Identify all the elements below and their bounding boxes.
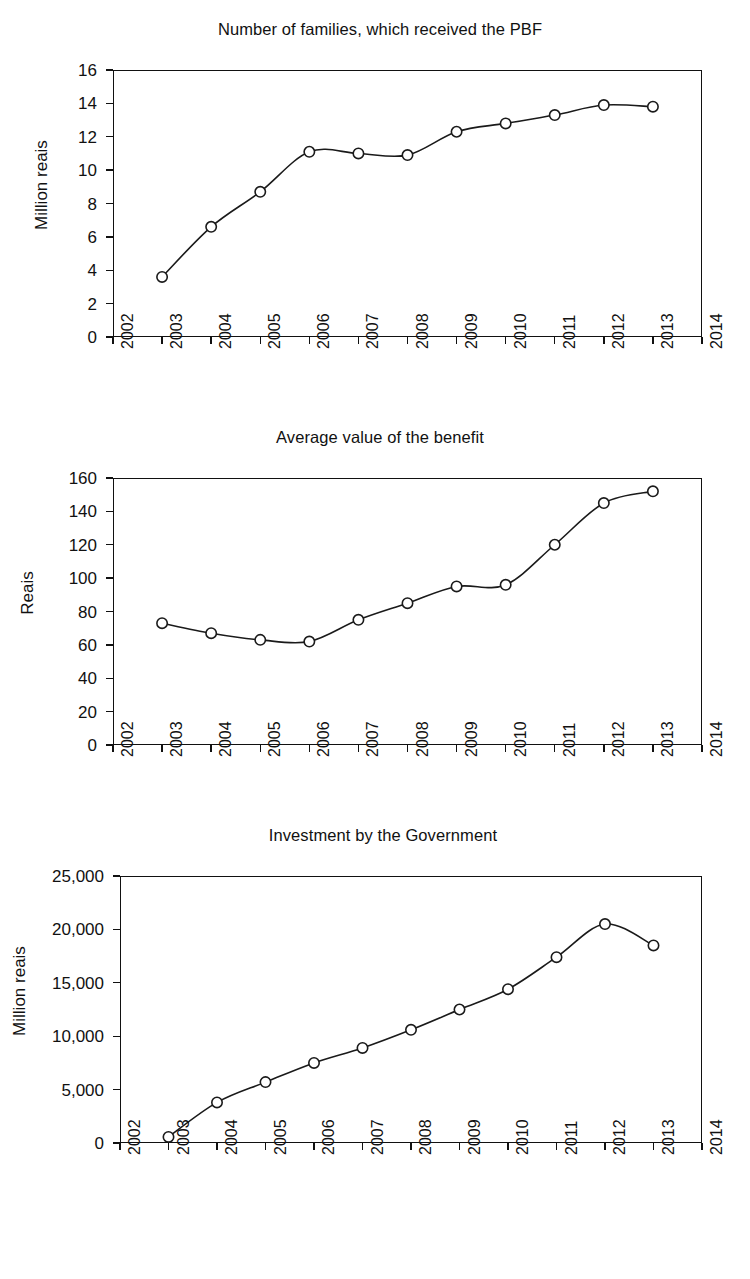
y-tick-mark bbox=[106, 511, 113, 512]
x-tick-mark bbox=[652, 745, 653, 752]
y-tick-mark bbox=[106, 103, 113, 104]
data-point-marker bbox=[550, 540, 560, 550]
caption-sliver bbox=[18, 1262, 348, 1271]
y-tick-mark bbox=[106, 678, 113, 679]
x-tick-mark bbox=[119, 1143, 120, 1150]
x-tick-mark bbox=[652, 337, 653, 344]
x-tick-mark bbox=[309, 745, 310, 752]
y-tick-label: 0 bbox=[88, 737, 97, 754]
y-tick-mark bbox=[106, 644, 113, 645]
x-tick-mark bbox=[407, 337, 408, 344]
x-tick-mark bbox=[653, 1143, 654, 1150]
data-point-marker bbox=[648, 486, 658, 496]
y-tick-mark bbox=[106, 169, 113, 170]
data-point-marker bbox=[648, 102, 658, 112]
data-point-marker bbox=[402, 598, 412, 608]
plot-area-average-benefit bbox=[113, 478, 702, 745]
data-point-marker bbox=[402, 150, 412, 160]
series-line-government-investment bbox=[120, 876, 702, 1143]
x-tick-mark bbox=[604, 1143, 605, 1150]
y-tick-label: 100 bbox=[69, 570, 97, 587]
y-tick-label: 10,000 bbox=[52, 1028, 104, 1045]
x-tick-label: 2007 bbox=[370, 1119, 386, 1155]
y-tick-label: 0 bbox=[88, 329, 97, 346]
x-tick-label: 2013 bbox=[660, 721, 676, 757]
x-tick-mark bbox=[505, 745, 506, 752]
data-point-marker bbox=[157, 618, 167, 628]
y-tick-mark bbox=[106, 577, 113, 578]
data-point-marker bbox=[551, 952, 561, 962]
x-tick-mark bbox=[459, 1143, 460, 1150]
data-point-marker bbox=[406, 1025, 416, 1035]
y-tick-label: 15,000 bbox=[52, 974, 104, 991]
chart-panel-average-benefit: Average value of the benefit Reais 02040… bbox=[0, 428, 750, 828]
y-tick-mark bbox=[113, 875, 120, 876]
data-point-marker bbox=[260, 1077, 270, 1087]
data-point-marker bbox=[600, 919, 610, 929]
x-tick-mark bbox=[168, 1143, 169, 1150]
chart-title-average-benefit: Average value of the benefit bbox=[0, 428, 750, 447]
x-tick-label: 2004 bbox=[224, 1119, 240, 1155]
y-tick-mark bbox=[113, 1142, 120, 1143]
x-tick-mark bbox=[701, 337, 702, 344]
x-tick-mark bbox=[410, 1143, 411, 1150]
x-tick-label: 2009 bbox=[467, 1119, 483, 1155]
x-tick-mark bbox=[313, 1143, 314, 1150]
y-tick-label: 16 bbox=[78, 62, 97, 79]
x-tick-mark bbox=[407, 745, 408, 752]
x-tick-mark bbox=[556, 1143, 557, 1150]
y-tick-mark bbox=[106, 336, 113, 337]
y-tick-mark bbox=[106, 611, 113, 612]
figure-page: Number of families, which received the P… bbox=[0, 0, 750, 1279]
y-tick-mark bbox=[106, 711, 113, 712]
x-tick-label: 2007 bbox=[365, 313, 381, 349]
x-tick-label: 2003 bbox=[169, 313, 185, 349]
data-point-marker bbox=[309, 1058, 319, 1068]
data-point-marker bbox=[454, 1004, 464, 1014]
y-tick-label: 8 bbox=[88, 195, 97, 212]
x-tick-label: 2010 bbox=[513, 313, 529, 349]
x-tick-label: 2009 bbox=[464, 313, 480, 349]
data-point-marker bbox=[503, 984, 513, 994]
y-tick-labels-average-benefit: 020406080100120140160 bbox=[0, 428, 105, 828]
x-tick-label: 2014 bbox=[709, 721, 725, 757]
y-tick-mark bbox=[106, 136, 113, 137]
data-point-marker bbox=[500, 118, 510, 128]
x-tick-mark bbox=[265, 1143, 266, 1150]
y-tick-label: 140 bbox=[69, 503, 97, 520]
y-tick-mark bbox=[113, 1089, 120, 1090]
y-tick-label: 10 bbox=[78, 162, 97, 179]
data-point-marker bbox=[255, 187, 265, 197]
data-point-marker bbox=[599, 100, 609, 110]
y-tick-mark bbox=[113, 1036, 120, 1037]
x-tick-mark bbox=[358, 745, 359, 752]
x-tick-label: 2004 bbox=[218, 313, 234, 349]
x-tick-mark bbox=[210, 337, 211, 344]
y-tick-mark bbox=[113, 929, 120, 930]
x-tick-label: 2011 bbox=[562, 723, 578, 757]
x-tick-label: 2003 bbox=[169, 721, 185, 757]
x-tick-label: 2007 bbox=[365, 721, 381, 757]
x-tick-mark bbox=[554, 745, 555, 752]
data-point-marker bbox=[212, 1097, 222, 1107]
x-tick-label: 2005 bbox=[267, 721, 283, 757]
data-point-marker bbox=[255, 635, 265, 645]
y-tick-label: 20,000 bbox=[52, 921, 104, 938]
x-tick-mark bbox=[210, 745, 211, 752]
x-tick-label: 2009 bbox=[464, 721, 480, 757]
y-tick-label: 14 bbox=[78, 95, 97, 112]
series-path bbox=[162, 491, 653, 643]
x-tick-mark bbox=[362, 1143, 363, 1150]
x-tick-label: 2005 bbox=[267, 313, 283, 349]
x-tick-label: 2008 bbox=[415, 721, 431, 757]
x-tick-mark bbox=[161, 337, 162, 344]
x-tick-mark bbox=[603, 745, 604, 752]
x-tick-label: 2011 bbox=[564, 1121, 580, 1155]
y-tick-mark bbox=[106, 303, 113, 304]
x-tick-label: 2013 bbox=[661, 1119, 677, 1155]
y-tick-label: 40 bbox=[78, 670, 97, 687]
y-tick-mark bbox=[106, 544, 113, 545]
y-tick-label: 120 bbox=[69, 536, 97, 553]
x-tick-label: 2006 bbox=[321, 1119, 337, 1155]
plot-area-government-investment bbox=[120, 876, 702, 1143]
